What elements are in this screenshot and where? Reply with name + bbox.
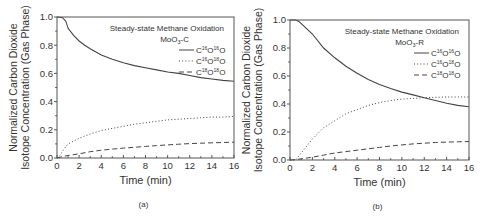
x-tick-label: 0	[287, 162, 292, 173]
figure-canvas: 02468101214160.00.20.40.60.81.0Time (min…	[0, 0, 487, 220]
y-axis-label-line2: Isotope Concentration (Gas Phase)	[252, 8, 264, 173]
legend-label: C16O16O	[431, 48, 460, 58]
x-axis-label: Time (min)	[353, 176, 405, 188]
y-tick-label: 0.4	[40, 96, 53, 107]
legend-title: Steady-state Methane Oxidation	[110, 24, 224, 33]
chart-panel-b: 02468101214160.00.20.40.60.81.0Time (min…	[240, 8, 474, 211]
x-tick-label: 16	[464, 162, 475, 173]
y-tick-label: 0.0	[40, 152, 53, 163]
panel-label: (a)	[139, 200, 149, 209]
chart-panel-a: 02468101214160.00.20.40.60.81.0Time (min…	[7, 5, 239, 209]
x-tick-label: 14	[441, 162, 452, 173]
x-tick-label: 10	[397, 162, 408, 173]
y-tick-label: 0.0	[273, 154, 286, 165]
x-tick-label: 2	[310, 162, 315, 173]
y-tick-label: 1.0	[40, 11, 53, 22]
y-tick-label: 0.6	[273, 70, 286, 81]
catalyst-name: MoO	[160, 35, 177, 44]
catalyst-suffix: -C	[181, 35, 190, 44]
y-tick-label: 0.8	[40, 40, 53, 51]
legend-label: C16O16O	[196, 45, 225, 55]
catalyst-name: MoO	[395, 38, 412, 47]
x-tick-label: 8	[377, 162, 382, 173]
element-symbol: O	[219, 68, 225, 77]
x-tick-label: 8	[143, 160, 148, 171]
x-tick-label: 12	[184, 160, 195, 171]
series-line-c16o18o	[290, 97, 469, 160]
x-tick-label: 4	[332, 162, 337, 173]
element-symbol: O	[219, 57, 225, 66]
y-tick-label: 0.2	[273, 126, 286, 137]
y-tick-label: 0.2	[40, 124, 53, 135]
series-line-c16o18o	[57, 116, 234, 158]
x-tick-label: 0	[54, 160, 59, 171]
plot-frame	[290, 20, 469, 160]
y-tick-label: 0.4	[273, 98, 286, 109]
legend-title: Steady-state Methane Oxidation	[345, 27, 459, 36]
element-symbol: O	[454, 49, 460, 58]
x-tick-label: 4	[99, 160, 104, 171]
y-axis-label-line1: Normalized Carbon Dioxide	[7, 23, 19, 152]
y-tick-label: 0.6	[40, 68, 53, 79]
x-tick-label: 6	[354, 162, 359, 173]
y-tick-label: 0.8	[273, 42, 286, 53]
x-tick-label: 14	[207, 160, 218, 171]
legend-label: C16O18O	[196, 56, 225, 66]
x-tick-label: 16	[229, 160, 240, 171]
x-tick-label: 6	[121, 160, 126, 171]
catalyst-suffix: -R	[416, 38, 425, 47]
element-symbol: O	[219, 46, 225, 55]
x-tick-label: 10	[162, 160, 173, 171]
legend-label: C18O18O	[196, 67, 225, 77]
x-tick-label: 12	[419, 162, 430, 173]
plot-frame	[57, 17, 234, 158]
legend-subtitle: MoO3-R	[395, 38, 424, 48]
x-tick-label: 2	[76, 160, 81, 171]
legend-subtitle: MoO3-C	[160, 35, 189, 45]
y-tick-label: 1.0	[273, 14, 286, 25]
element-symbol: O	[454, 71, 460, 80]
x-axis-label: Time (min)	[119, 174, 171, 186]
y-axis-label-line2: Isotope Concentration (Gas Phase)	[19, 5, 31, 170]
legend-label: C18O18O	[431, 70, 460, 80]
panel-label: (b)	[373, 202, 383, 211]
y-axis-label-line1: Normalized Carbon Dioxide	[240, 26, 252, 155]
element-symbol: O	[454, 60, 460, 69]
legend-label: C16O18O	[431, 59, 460, 69]
